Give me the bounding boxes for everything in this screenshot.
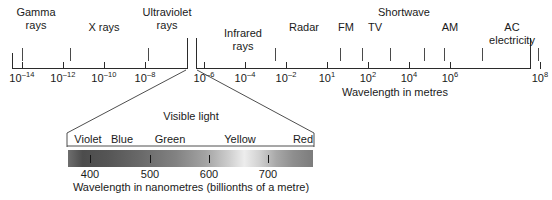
nm-tick-label: 500 (141, 168, 159, 180)
color-label-yellow: Yellow (224, 133, 255, 145)
em-spectrum-figure: 10–1410–1210–1010–810–610–410–2101102104… (0, 0, 552, 200)
band-label-line: rays (224, 40, 262, 53)
color-label-blue: Blue (111, 133, 133, 145)
color-label-green: Green (155, 133, 186, 145)
visible-light-title: Visible light (163, 110, 218, 122)
scale-tick-label: 10–10 (91, 72, 116, 84)
band-pointer-tick (362, 48, 363, 61)
scale-tick-label: 106 (442, 72, 459, 84)
axis-break-bar-left (187, 38, 188, 69)
band-label-shortwave: Shortwave (378, 6, 430, 19)
scale-tick (368, 62, 369, 69)
band-label-line: AC (489, 21, 535, 34)
band-label-fm: FM (338, 21, 354, 34)
band-label-radar: Radar (289, 21, 319, 34)
color-label-red: Red (293, 133, 313, 145)
main-axis-caption: Wavelength in metres (342, 86, 448, 98)
color-label-violet: Violet (74, 133, 101, 145)
nm-tick (150, 155, 151, 163)
band-label-line: X rays (88, 21, 119, 34)
band-label-line: Radar (289, 21, 319, 34)
band-pointer-tick (70, 48, 71, 61)
scale-tick (104, 62, 105, 69)
nm-tick (268, 155, 269, 163)
band-pointer-tick (22, 48, 23, 61)
band-pointer-tick (275, 48, 276, 61)
scale-tick (245, 62, 246, 69)
band-label-line: electricity (489, 34, 535, 47)
scale-tick-label: 10–2 (276, 72, 297, 84)
nm-tick-label: 400 (81, 168, 99, 180)
band-label-line: rays (143, 19, 192, 32)
scale-tick (63, 62, 64, 69)
band-label-am: AM (442, 21, 459, 34)
band-label-line: Infrared (224, 27, 262, 40)
visible-spectrum-bar (68, 150, 313, 167)
nm-tick-label: 700 (259, 168, 277, 180)
nm-tick-label: 600 (200, 168, 218, 180)
scale-tick-label: 104 (401, 72, 418, 84)
main-axis-line-right (196, 68, 531, 69)
axis-break-bar-right (196, 38, 197, 69)
scale-tick (450, 62, 451, 69)
scale-tick (327, 62, 328, 69)
scale-tick (286, 62, 287, 69)
band-label-line: Shortwave (378, 6, 430, 19)
band-label-line: Gamma (16, 6, 55, 19)
band-pointer-tick (424, 48, 425, 61)
scale-tick-label: 102 (360, 72, 377, 84)
band-label-infrared-rays: Infraredrays (224, 27, 262, 52)
band-pointer-tick (340, 48, 341, 61)
nm-tick (209, 155, 210, 163)
axis-end-cap-left (12, 53, 13, 69)
band-label-line: TV (368, 21, 382, 34)
band-label-line: rays (16, 19, 55, 32)
scale-tick (22, 62, 23, 69)
band-label-ultraviolet-rays: Ultravioletrays (143, 6, 192, 31)
band-pointer-tick (538, 48, 539, 61)
band-pointer-tick (444, 48, 445, 61)
scale-tick-label: 108 (532, 72, 549, 84)
main-axis-line-left (12, 68, 187, 69)
band-label-x-rays: X rays (88, 21, 119, 34)
scale-tick (204, 62, 205, 69)
scale-tick-label: 10–4 (235, 72, 256, 84)
band-label-line: FM (338, 21, 354, 34)
band-label-tv: TV (368, 21, 382, 34)
scale-tick-label: 10–8 (135, 72, 156, 84)
band-label-ac-electricity: ACelectricity (489, 21, 535, 46)
visible-light-caption: Wavelength in nanometres (billionths of … (73, 181, 309, 193)
scale-tick (540, 62, 541, 69)
band-pointer-tick (148, 48, 149, 61)
scale-tick-label: 10–14 (9, 72, 34, 84)
band-pointer-tick (390, 48, 391, 61)
scale-tick (145, 62, 146, 69)
band-label-line: Ultraviolet (143, 6, 192, 19)
scale-tick-label: 10–12 (50, 72, 75, 84)
band-label-gamma-rays: Gammarays (16, 6, 55, 31)
band-pointer-tick (482, 48, 483, 61)
scale-tick-label: 10–6 (194, 72, 215, 84)
scale-tick (409, 62, 410, 69)
scale-tick-label: 101 (319, 72, 336, 84)
nm-tick (90, 155, 91, 163)
band-label-line: AM (442, 21, 459, 34)
